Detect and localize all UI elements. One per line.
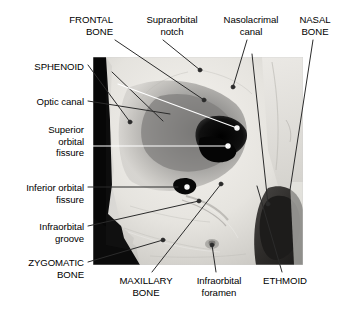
label-line: ZYGOMATIC xyxy=(2,257,84,269)
label-line: foramen xyxy=(177,287,261,299)
label-frontal-bone: FRONTALBONE xyxy=(33,14,113,37)
label-line: SPHENOID xyxy=(4,61,84,73)
label-line: Optic canal xyxy=(4,96,84,108)
label-infraorbital-groove: Infraorbitalgroove xyxy=(4,221,84,244)
label-maxillary-bone: MAXILLARYBONE xyxy=(104,275,188,298)
label-line: Infraorbital xyxy=(4,221,84,233)
label-line: BONE xyxy=(289,26,341,38)
label-line: BONE xyxy=(2,269,84,281)
label-line: orbital xyxy=(4,136,84,148)
label-line: groove xyxy=(4,233,84,245)
label-line: fissure xyxy=(0,194,84,206)
anatomical-figure: FRONTALBONE Supraorbitalnotch Nasolacrim… xyxy=(0,0,344,314)
label-nasolacrimal-canal: Nasolacrimalcanal xyxy=(209,14,293,37)
label-line: ETHMOID xyxy=(255,275,315,287)
label-ethmoid: ETHMOID xyxy=(255,275,315,287)
label-line: canal xyxy=(209,26,293,38)
label-line: Infraorbital xyxy=(177,275,261,287)
label-zygomatic-bone: ZYGOMATICBONE xyxy=(2,257,84,280)
label-inferior-orbital-fissure: Inferior orbitalfissure xyxy=(0,182,84,205)
label-line: Supraorbital xyxy=(132,14,212,26)
label-line: fissure xyxy=(4,147,84,159)
label-line: BONE xyxy=(33,26,113,38)
label-nasal-bone: NASALBONE xyxy=(289,14,341,37)
label-line: NASAL xyxy=(289,14,341,26)
label-line: FRONTAL xyxy=(33,14,113,26)
label-line: BONE xyxy=(104,287,188,299)
label-superior-orbital-fissure: Superiororbitalfissure xyxy=(4,124,84,159)
label-line: Superior xyxy=(4,124,84,136)
label-sphenoid: SPHENOID xyxy=(4,61,84,73)
label-optic-canal: Optic canal xyxy=(4,96,84,108)
label-line: notch xyxy=(132,26,212,38)
label-line: Inferior orbital xyxy=(0,182,84,194)
label-infraorbital-foramen: Infraorbitalforamen xyxy=(177,275,261,298)
label-line: MAXILLARY xyxy=(104,275,188,287)
label-supraorbital-notch: Supraorbitalnotch xyxy=(132,14,212,37)
label-line: Nasolacrimal xyxy=(209,14,293,26)
label-text-layer: FRONTALBONE Supraorbitalnotch Nasolacrim… xyxy=(0,0,344,314)
